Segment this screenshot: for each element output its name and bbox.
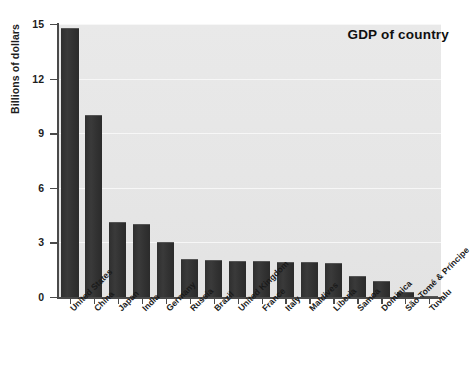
y-axis-tick-label: 15 xyxy=(20,18,44,30)
bar xyxy=(229,261,246,297)
x-axis-tick xyxy=(262,298,263,304)
bar xyxy=(277,262,294,298)
gridline xyxy=(58,24,441,25)
y-axis-line xyxy=(57,23,59,298)
gridline xyxy=(58,133,441,134)
bar xyxy=(109,222,126,298)
y-axis-tick xyxy=(50,133,58,134)
y-axis-tick-label: 0 xyxy=(20,291,44,303)
bar xyxy=(181,259,198,297)
x-axis-tick xyxy=(190,298,191,304)
x-axis-tick xyxy=(405,298,406,304)
bar xyxy=(85,115,102,297)
y-axis-tick xyxy=(50,188,58,189)
y-axis-tick xyxy=(50,79,58,80)
x-axis-tick xyxy=(357,298,358,304)
y-axis-tick xyxy=(50,24,58,25)
y-axis-tick-label: 6 xyxy=(20,182,44,194)
x-axis-tick xyxy=(381,298,382,304)
bar xyxy=(157,242,174,298)
x-axis-tick xyxy=(70,298,71,304)
bar xyxy=(133,224,150,297)
bar xyxy=(61,28,78,297)
x-axis-tick xyxy=(429,298,430,304)
bar xyxy=(349,276,366,297)
bar xyxy=(301,262,318,297)
x-axis-tick xyxy=(333,298,334,304)
gridline xyxy=(58,188,441,189)
bar xyxy=(205,260,222,297)
y-axis-tick-label: 9 xyxy=(20,127,44,139)
x-axis-tick xyxy=(118,298,119,304)
y-axis-tick xyxy=(50,297,58,298)
x-axis-tick xyxy=(94,298,95,304)
plot-area xyxy=(58,24,441,297)
x-axis-tick xyxy=(214,298,215,304)
x-axis-line xyxy=(57,297,442,299)
chart-title: GDP of country xyxy=(347,27,449,42)
x-axis-tick xyxy=(285,298,286,304)
x-axis-tick xyxy=(142,298,143,304)
y-axis-tick-label: 3 xyxy=(20,236,44,248)
bar xyxy=(373,281,390,297)
y-axis-tick xyxy=(50,242,58,243)
y-axis-tick-label: 12 xyxy=(20,73,44,85)
bar xyxy=(253,261,270,297)
bar xyxy=(325,263,342,297)
x-axis-tick xyxy=(309,298,310,304)
x-axis-tick xyxy=(238,298,239,304)
x-axis-tick xyxy=(166,298,167,304)
gridline xyxy=(58,79,441,80)
